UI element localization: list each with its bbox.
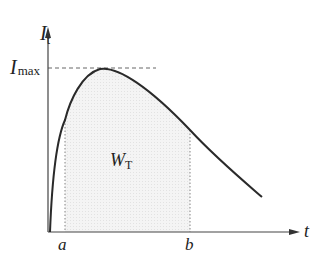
area-wt-shading: [65, 69, 190, 232]
x-axis-arrow-icon: [289, 229, 300, 235]
imax-label: Imax: [9, 56, 41, 78]
marker-b-label: b: [185, 235, 194, 254]
y-axis-label: It: [39, 22, 51, 47]
current-time-diagram: It Imax WT a b t: [0, 0, 323, 258]
marker-a-label: a: [58, 235, 67, 254]
x-axis-label: t: [304, 221, 310, 241]
